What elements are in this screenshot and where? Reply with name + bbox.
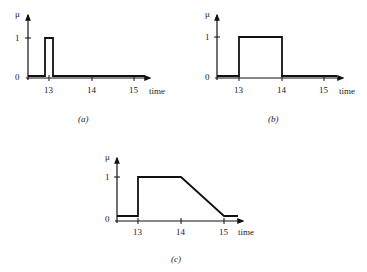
figure: μ 1 0 13 14 15 time (a) μ 1 0 13 14 15 t… xyxy=(0,0,367,272)
x-tick-label-13: 13 xyxy=(234,85,244,95)
membership-curve xyxy=(28,38,145,76)
x-tick-label-15: 15 xyxy=(129,85,139,95)
y-axis-label: μ xyxy=(105,152,110,162)
y-axis-label: μ xyxy=(205,9,210,19)
y-tick-label-1: 1 xyxy=(15,33,20,43)
caption-b: (b) xyxy=(268,114,279,124)
x-tick-label-14: 14 xyxy=(176,227,186,237)
y-tick-label-0: 0 xyxy=(105,214,110,224)
y-axis-label: μ xyxy=(15,9,20,19)
x-tick-label-13: 13 xyxy=(44,85,54,95)
membership-curve xyxy=(117,177,238,216)
x-tick-label-14: 14 xyxy=(277,85,287,95)
chart-c: μ 1 0 13 14 15 time (c) xyxy=(105,152,254,264)
x-axis-label: time xyxy=(238,227,254,237)
x-axis-label: time xyxy=(149,86,165,96)
y-tick-label-0: 0 xyxy=(205,72,210,82)
x-tick-label-15: 15 xyxy=(319,85,329,95)
chart-a: μ 1 0 13 14 15 time (a) xyxy=(15,9,165,124)
x-tick-label-15: 15 xyxy=(219,227,229,237)
x-tick-label-14: 14 xyxy=(87,85,97,95)
caption-a: (a) xyxy=(78,114,89,124)
membership-curve xyxy=(217,37,337,76)
chart-b: μ 1 0 13 14 15 time (b) xyxy=(205,9,355,124)
y-tick-label-1: 1 xyxy=(205,32,210,42)
y-tick-label-1: 1 xyxy=(105,172,110,182)
caption-c: (c) xyxy=(171,254,181,264)
y-tick-label-0: 0 xyxy=(15,72,20,82)
x-tick-label-13: 13 xyxy=(133,227,143,237)
x-axis-label: time xyxy=(339,86,355,96)
